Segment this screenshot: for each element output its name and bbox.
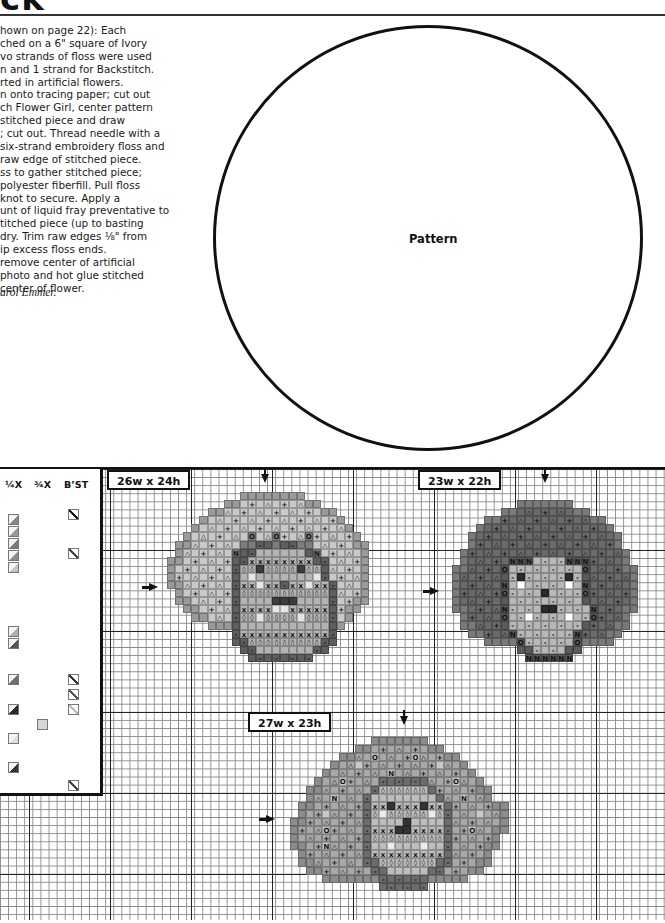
- instruction-line: photo and hot glue stitched: [0, 269, 215, 282]
- backstitch-swatch: [68, 674, 79, 685]
- instruction-line: raw edge of stitched piece.: [0, 153, 215, 166]
- quarter-swatch: [8, 562, 19, 573]
- color-key: ¼X ¾X B’ST: [0, 467, 103, 796]
- center-column-arrow-icon: [261, 474, 269, 483]
- quarter-swatch: [8, 638, 19, 649]
- center-row-arrow-icon: [266, 815, 275, 823]
- quarter-swatch: [8, 538, 19, 549]
- stitch-chart-flower-girl-3: +△+△O△+O△+△+△+△+△△+△N△+△+△O+△---△+O△△+△-…: [290, 737, 509, 923]
- backstitch-swatch: [68, 509, 79, 520]
- key-header-quarter-stitch: ¼X: [5, 479, 22, 490]
- quarter-swatch: [8, 526, 19, 537]
- instruction-line: stitched piece and draw: [0, 114, 215, 127]
- backstitch-swatch: [68, 548, 79, 559]
- pattern-label: Pattern: [409, 232, 458, 246]
- center-row-arrow-icon: [149, 583, 158, 591]
- quarter-swatch: [8, 733, 19, 744]
- instruction-line: rted in artificial flowers.: [0, 76, 215, 89]
- quarter-swatch: [8, 704, 19, 715]
- instruction-line: knot to secure. Apply a: [0, 192, 215, 205]
- chart-size-label: 23w x 22h: [418, 470, 501, 490]
- instruction-line: n and 1 strand for Backstitch.: [0, 63, 215, 76]
- instruction-line: remove center of artificial: [0, 256, 215, 269]
- instruction-line: six-strand embroidery floss and: [0, 140, 215, 153]
- center-column-arrow-icon: [400, 716, 408, 725]
- instruction-line: hown on page 22): Each: [0, 24, 215, 37]
- instruction-line: ched on a 6" square of Ivory: [0, 37, 215, 50]
- instruction-line: polyester fiberfill. Pull floss: [0, 179, 215, 192]
- quarter-swatch: [8, 674, 19, 685]
- instruction-line: n onto tracing paper; cut out: [0, 88, 215, 101]
- stitch-chart-flower-girl-2: △+△+△+△+△+△+△+△++△+△+△+△+△+△+△+△++△+△+△+…: [452, 500, 638, 678]
- stitch-chart-flower-girl-1: +△+△△+△+△+△+△+△+△+△+△+△+△+△△+△O△O+△O+△+△…: [159, 492, 369, 686]
- backstitch-swatch: [68, 780, 79, 791]
- instruction-line: ip excess floss ends.: [0, 243, 215, 256]
- chart-size-label: 27w x 23h: [248, 712, 331, 732]
- instructions-text: hown on page 22): Eachched on a 6" squar…: [0, 24, 215, 295]
- quarter-swatch: [8, 762, 19, 773]
- three-quarter-swatch: [37, 719, 48, 730]
- designer-credit: arol Emmer.: [0, 286, 56, 298]
- instruction-line: unt of liquid fray preventative to: [0, 204, 215, 217]
- backstitch-swatch: [68, 689, 79, 700]
- center-column-arrow-icon: [541, 474, 549, 483]
- key-header-three-quarter-stitch: ¾X: [34, 479, 51, 490]
- instruction-line: ; cut out. Thread needle with a: [0, 127, 215, 140]
- quarter-swatch: [8, 550, 19, 561]
- instruction-line: vo strands of floss were used: [0, 50, 215, 63]
- instruction-line: ch Flower Girl, center pattern: [0, 101, 215, 114]
- center-row-arrow-icon: [430, 587, 439, 595]
- chart-size-label: 26w x 24h: [107, 470, 190, 490]
- quarter-swatch: [8, 514, 19, 525]
- instruction-line: titched piece (up to basting: [0, 217, 215, 230]
- backstitch-swatch: [68, 704, 79, 715]
- quarter-swatch: [8, 626, 19, 637]
- header-rule: [0, 14, 665, 16]
- instruction-line: ss to gather stitched piece;: [0, 166, 215, 179]
- key-header-backstitch: B’ST: [64, 479, 88, 490]
- instruction-line: dry. Trim raw edges ⅛" from: [0, 230, 215, 243]
